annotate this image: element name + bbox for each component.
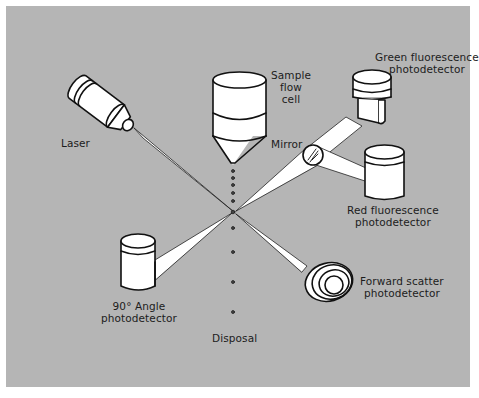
green-detector-icon (353, 70, 391, 124)
red-detector-label: Red fluorescence photodetector (347, 204, 439, 228)
flow-cell-icon (213, 72, 266, 165)
mirror-icon (303, 145, 323, 165)
red-beam (316, 148, 368, 182)
forward-scatter-beam (236, 214, 307, 272)
side-scatter-beam (155, 213, 232, 280)
laser-icon (64, 72, 140, 139)
red-detector-icon (365, 145, 404, 200)
green-detector-label: Green fluorescence photodetector (375, 51, 479, 75)
droplet-stream (231, 170, 235, 314)
sample-flow-cell-label: Sample flow cell (271, 69, 311, 105)
forward-scatter-label: Forward scatter photodetector (360, 275, 444, 299)
disposal-label: Disposal (212, 332, 257, 344)
side-scatter-detector-icon (121, 234, 155, 290)
forward-scatter-detector-icon (301, 257, 357, 306)
side-scatter-label: 90° Angle photodetector (101, 300, 177, 324)
laser-label: Laser (61, 137, 90, 149)
mirror-label: Mirror (271, 138, 303, 150)
